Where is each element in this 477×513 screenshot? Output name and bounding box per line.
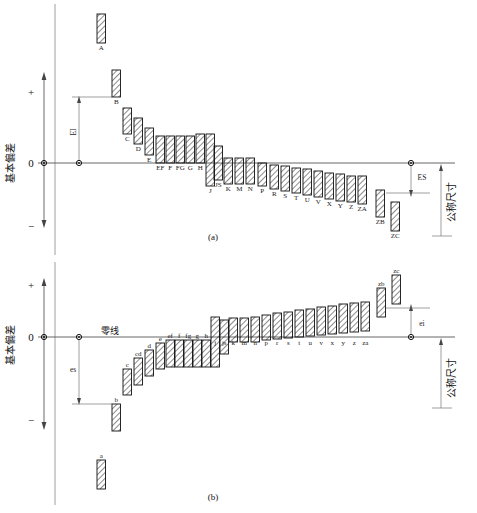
tolerance-bar-label: P bbox=[260, 187, 264, 195]
tolerance-bar-label: FG bbox=[176, 164, 185, 172]
tolerance-bar: s bbox=[284, 312, 293, 347]
tolerance-bar-body bbox=[292, 168, 301, 193]
tolerance-bar: X bbox=[325, 173, 334, 208]
tolerance-bar-label: X bbox=[327, 200, 332, 208]
tolerance-bar: u bbox=[306, 309, 315, 347]
panel-b-bars: abccddeefffgghjjskmnprstuvxyzzazbzc bbox=[97, 267, 401, 489]
tolerance-bar-body bbox=[193, 340, 202, 367]
tolerance-bar-label: u bbox=[309, 339, 313, 347]
tolerance-bar: n bbox=[251, 317, 260, 347]
tolerance-bar: T bbox=[292, 168, 301, 202]
tolerance-bar-body bbox=[224, 158, 233, 184]
panel-a-vertical-axis bbox=[42, 72, 47, 228]
tolerance-bar: d bbox=[145, 342, 154, 376]
tolerance-bar-body bbox=[358, 176, 367, 204]
tolerance-bar-body bbox=[317, 307, 326, 335]
tolerance-bar-body bbox=[258, 163, 267, 186]
tolerance-bar-body bbox=[186, 136, 195, 163]
tolerance-bar: D bbox=[134, 118, 143, 153]
tolerance-bar-label: J bbox=[209, 187, 212, 195]
tolerance-bar-label: T bbox=[294, 194, 299, 202]
tolerance-bar: ZA bbox=[358, 176, 367, 213]
tolerance-bar-body bbox=[97, 460, 106, 489]
tolerance-bar: ZC bbox=[391, 202, 400, 240]
tolerance-bar-body bbox=[246, 158, 255, 184]
tolerance-bar: z bbox=[350, 303, 359, 347]
tolerance-bar-body bbox=[336, 174, 345, 201]
tolerance-bar-body bbox=[314, 171, 323, 197]
panel-a-plus-sign: + bbox=[28, 86, 34, 98]
tolerance-bar: H bbox=[196, 134, 205, 172]
tolerance-bar-label: g bbox=[196, 332, 200, 340]
tolerance-bar-body bbox=[123, 369, 132, 395]
panel-a-caption: (a) bbox=[208, 232, 218, 242]
tolerance-bar: E bbox=[145, 128, 154, 164]
tolerance-bar-body bbox=[97, 14, 106, 43]
tolerance-bar-label: f bbox=[178, 332, 181, 340]
tolerance-bar-label: k bbox=[232, 339, 236, 347]
panel-a-EI-label: EI bbox=[69, 128, 78, 136]
tolerance-bar-label: EF bbox=[156, 164, 164, 172]
tolerance-bar: b bbox=[112, 396, 121, 431]
panel-a-EI-dimension bbox=[72, 96, 112, 160]
panel-b-vertical-axis bbox=[42, 278, 47, 430]
tolerance-bar-body bbox=[156, 136, 165, 163]
tolerance-bar-body bbox=[156, 343, 165, 369]
tolerance-bar-label: y bbox=[342, 339, 346, 347]
tolerance-bar: x bbox=[328, 306, 337, 347]
tolerance-bar-label: G bbox=[188, 164, 193, 172]
tolerance-bar-label: U bbox=[305, 196, 310, 204]
tolerance-bar-label: a bbox=[100, 452, 104, 460]
tolerance-bar: za bbox=[361, 302, 370, 347]
tolerance-bar-label: V bbox=[316, 198, 321, 206]
tolerance-bar: B bbox=[112, 70, 121, 106]
tolerance-bar-label: z bbox=[353, 339, 356, 347]
tolerance-bar: P bbox=[258, 163, 267, 195]
panel-b-es-label: es bbox=[70, 365, 76, 374]
tolerance-bar: js bbox=[220, 320, 229, 354]
tolerance-bar: zc bbox=[392, 267, 401, 304]
tolerance-bar: A bbox=[97, 14, 106, 52]
tolerance-bar-label: Z bbox=[349, 203, 353, 211]
tolerance-bar-body bbox=[325, 173, 334, 199]
panel-a-nominal-size-label: 公称尺寸 bbox=[445, 182, 457, 222]
tolerance-bar-label: K bbox=[226, 185, 231, 193]
tolerance-bar: m bbox=[240, 318, 249, 347]
tolerance-bar-body bbox=[145, 350, 154, 376]
tolerance-bar-body bbox=[184, 340, 193, 367]
tolerance-bar-body bbox=[377, 288, 386, 317]
tolerance-bar: EF bbox=[156, 136, 165, 172]
tolerance-bar-body bbox=[339, 304, 348, 333]
tolerance-bar-label: h bbox=[205, 332, 209, 340]
tolerance-bar-body bbox=[270, 165, 279, 189]
tolerance-bar-body bbox=[202, 340, 211, 367]
tolerance-bar-label: j bbox=[213, 339, 216, 347]
tolerance-bar-label: ZB bbox=[376, 218, 385, 226]
tolerance-bar-body bbox=[392, 275, 401, 304]
tolerance-bar-label: C bbox=[125, 135, 130, 143]
tolerance-bar: y bbox=[339, 304, 348, 347]
tolerance-bar-body bbox=[295, 310, 304, 337]
tolerance-bar-label: v bbox=[320, 339, 324, 347]
tolerance-bar-body bbox=[220, 320, 229, 354]
tolerance-bar: J bbox=[206, 134, 215, 195]
tolerance-bar-label: S bbox=[283, 192, 287, 200]
tolerance-bar-body bbox=[328, 306, 337, 334]
tolerance-bar-label: E bbox=[147, 156, 151, 164]
tolerance-bar-label: B bbox=[114, 98, 119, 106]
tolerance-bar-label: x bbox=[331, 339, 335, 347]
tolerance-bar-label: fg bbox=[185, 332, 191, 340]
tolerance-bar: Y bbox=[336, 174, 345, 210]
panel-b-zero-tick: 0 bbox=[28, 331, 34, 343]
tolerance-bar-label: s bbox=[287, 339, 290, 347]
tolerance-bar-label: b bbox=[115, 396, 119, 404]
tolerance-bar-body bbox=[176, 136, 185, 163]
panel-a: ABCDEEFFFGGHJJSKMNPRSTUVXYZZAZBZC + 0 − … bbox=[4, 4, 457, 255]
tolerance-bar-label: M bbox=[236, 185, 243, 193]
tolerance-bar-body bbox=[262, 315, 271, 340]
tolerance-bar: FG bbox=[176, 136, 185, 172]
tolerance-bar-label: r bbox=[276, 339, 279, 347]
tolerance-bar-label: A bbox=[99, 44, 104, 52]
tolerance-bar: C bbox=[123, 108, 132, 143]
tolerance-bar-label: ZA bbox=[358, 205, 367, 213]
